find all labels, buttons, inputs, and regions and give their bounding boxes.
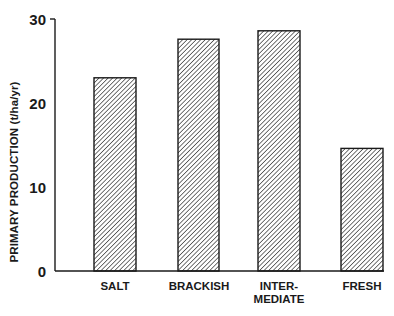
- bar-brackish: [178, 39, 219, 271]
- x-label-fresh-text: FRESH: [343, 280, 382, 292]
- bar-chart: PRIMARY PRODUCTION (t/ha/yr) 30 20 10 0 …: [0, 0, 394, 316]
- x-label-intermediate: INTER- MEDIATE: [239, 280, 319, 306]
- y-tick-label-20: 20: [16, 95, 46, 112]
- y-tick-label-0: 0: [16, 263, 46, 280]
- bar-fresh: [341, 148, 383, 271]
- x-label-salt-text: SALT: [100, 280, 129, 292]
- bar-salt: [94, 78, 136, 271]
- x-label-fresh: FRESH: [322, 280, 394, 293]
- x-label-salt: SALT: [75, 280, 155, 293]
- x-label-brackish-text: BRACKISH: [169, 280, 230, 292]
- y-tick-label-30: 30: [16, 11, 46, 28]
- bars-group: [94, 31, 383, 271]
- x-label-brackish: BRACKISH: [159, 280, 239, 293]
- chart-plot-area: [0, 0, 394, 316]
- x-label-intermediate-line2: MEDIATE: [239, 293, 319, 306]
- x-label-intermediate-line1: INTER-: [239, 280, 319, 293]
- y-tick-label-10: 10: [16, 179, 46, 196]
- bar-intermediate: [258, 31, 300, 271]
